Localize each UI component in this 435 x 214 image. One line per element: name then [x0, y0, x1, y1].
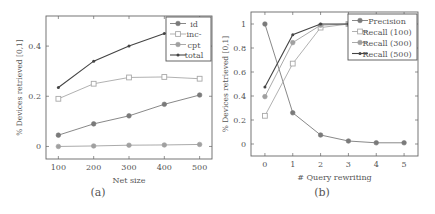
y-axis-label: % Devices retrieved [0,1]	[15, 39, 24, 136]
y-tick-label: 0.2	[233, 116, 246, 125]
circle-marker	[91, 122, 96, 127]
star-marker	[128, 45, 131, 48]
circle-marker	[127, 114, 132, 119]
circle-marker	[127, 143, 132, 148]
circle-marker	[290, 111, 295, 116]
square-marker	[56, 96, 61, 101]
legend: idinc-cpttotal	[166, 17, 211, 61]
y-tick-label: 0.4	[233, 92, 246, 101]
series-cpt	[56, 142, 202, 149]
circle-marker	[91, 144, 96, 149]
series-id	[56, 93, 202, 138]
x-tick-label: 200	[86, 163, 101, 172]
caption-a: (a)	[78, 186, 118, 199]
circle-marker	[358, 18, 363, 23]
circle-marker	[346, 139, 351, 144]
y-tick-label: 0	[36, 142, 41, 151]
series-inc	[56, 75, 202, 102]
y-tick-label: 0	[241, 140, 246, 149]
y-axis-label: % Devices retrieved [0,1]	[221, 36, 230, 133]
x-tick-label: 300	[121, 163, 136, 172]
square-marker	[127, 75, 132, 80]
star-marker	[263, 86, 266, 89]
caption-b: (b)	[302, 186, 342, 199]
x-tick-label: 400	[157, 163, 172, 172]
circle-marker	[290, 40, 295, 45]
chart-panel-b: 01234500.20.40.60.81# Query rewriting% D…	[217, 0, 435, 214]
circle-marker	[56, 133, 61, 138]
legend-entry: Recall (500)	[362, 50, 411, 59]
star-marker	[177, 54, 180, 57]
circle-marker	[402, 141, 407, 146]
x-tick-label: 2	[318, 160, 323, 169]
square-marker	[290, 61, 295, 66]
y-tick-label: 0.2	[28, 92, 41, 101]
circle-marker	[197, 93, 202, 98]
legend-entry: Recall (100)	[362, 28, 411, 37]
x-tick-label: 5	[402, 160, 407, 169]
legend-entry: id	[190, 20, 198, 29]
x-tick-label: 500	[192, 163, 207, 172]
y-tick-label: 0.6	[233, 68, 246, 77]
circle-marker	[176, 21, 181, 26]
circle-marker	[263, 94, 268, 99]
star-marker	[92, 60, 95, 63]
circle-marker	[374, 141, 379, 146]
x-tick-label: 3	[346, 160, 351, 169]
star-marker	[57, 86, 60, 89]
square-marker	[91, 81, 96, 86]
legend-entry: total	[185, 51, 204, 60]
legend-entry: cpt	[188, 41, 202, 50]
circle-marker	[176, 42, 181, 47]
x-axis-label: # Query rewriting	[297, 173, 371, 182]
x-tick-label: 1	[290, 160, 295, 169]
star-marker	[291, 33, 294, 36]
circle-marker	[56, 144, 61, 149]
legend-entry: Precision	[368, 17, 406, 26]
y-tick-label: 0.8	[233, 44, 246, 53]
star-marker	[359, 52, 362, 55]
square-marker	[176, 32, 181, 37]
circle-marker	[263, 22, 268, 27]
y-tick-label: 1	[241, 20, 246, 29]
chart-panel-a: 10020030040050000.20.4Net size% Devices …	[0, 0, 217, 214]
x-axis-label: Net size	[112, 176, 145, 185]
legend-entry: Recall (300)	[362, 39, 411, 48]
square-marker	[162, 75, 167, 80]
legend: PrecisionRecall (100)Recall (300)Recall …	[348, 14, 417, 60]
square-marker	[263, 113, 268, 118]
star-marker	[319, 23, 322, 26]
circle-marker	[318, 133, 323, 138]
circle-marker	[162, 102, 167, 107]
x-tick-label: 100	[51, 163, 66, 172]
star-marker	[163, 32, 166, 35]
line-chart-query-rewriting: 01234500.20.40.60.81# Query rewriting% D…	[217, 0, 435, 214]
square-marker	[197, 76, 202, 81]
circle-marker	[197, 142, 202, 147]
legend-entry: inc-	[187, 30, 202, 39]
line-chart-net-size: 10020030040050000.20.4Net size% Devices …	[0, 0, 217, 214]
y-tick-label: 0.4	[28, 42, 41, 51]
x-tick-label: 4	[374, 160, 379, 169]
circle-marker	[162, 143, 167, 148]
x-tick-label: 0	[262, 160, 267, 169]
